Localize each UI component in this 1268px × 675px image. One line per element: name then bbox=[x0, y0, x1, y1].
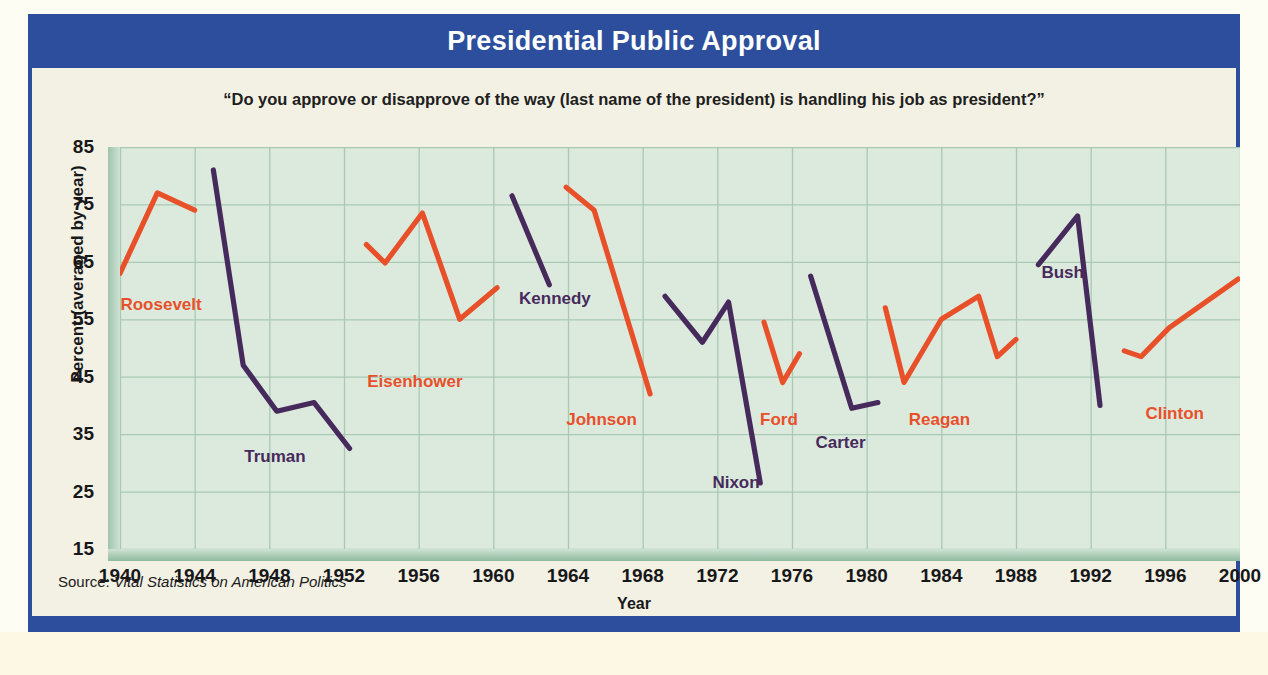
series-line-kennedy bbox=[512, 196, 549, 285]
chart-subtitle: “Do you approve or disapprove of the way… bbox=[32, 90, 1236, 109]
chart-page: Presidential Public Approval “Do you app… bbox=[0, 0, 1268, 675]
y-tick-label: 35 bbox=[48, 423, 94, 445]
plot-area: RooseveltTrumanEisenhowerKennedyJohnsonN… bbox=[120, 147, 1240, 549]
series-label-kennedy: Kennedy bbox=[519, 289, 591, 309]
page-title: Presidential Public Approval bbox=[447, 26, 821, 57]
y-tick-label: 15 bbox=[48, 538, 94, 560]
series-line-clinton bbox=[1124, 279, 1238, 357]
plot-outer: RooseveltTrumanEisenhowerKennedyJohnsonN… bbox=[108, 147, 1240, 561]
series-label-ford: Ford bbox=[760, 410, 798, 430]
plot-bottom-bevel bbox=[108, 549, 1240, 561]
x-tick-label: 1988 bbox=[976, 565, 1056, 587]
x-tick-label: 1984 bbox=[901, 565, 981, 587]
series-label-johnson: Johnson bbox=[566, 410, 637, 430]
source-prefix: Source: bbox=[58, 573, 114, 590]
series-line-truman bbox=[213, 170, 349, 449]
series-label-roosevelt: Roosevelt bbox=[120, 295, 201, 315]
source-note: Source: Vital Statistics on American Pol… bbox=[58, 573, 346, 590]
plot-left-bevel bbox=[108, 147, 120, 561]
x-tick-label: 1976 bbox=[752, 565, 832, 587]
series-label-carter: Carter bbox=[815, 433, 865, 453]
x-tick-label: 2000 bbox=[1200, 565, 1268, 587]
chart-panel: “Do you approve or disapprove of the way… bbox=[32, 68, 1236, 616]
series-label-nixon: Nixon bbox=[712, 473, 759, 493]
chart-svg bbox=[120, 147, 1240, 549]
chart-title-bar: Presidential Public Approval bbox=[28, 14, 1240, 68]
bottom-blue-strip bbox=[28, 622, 1240, 632]
series-label-bush: Bush bbox=[1041, 263, 1084, 283]
series-line-ford bbox=[764, 322, 799, 382]
x-axis-title: Year bbox=[32, 595, 1236, 613]
series-label-reagan: Reagan bbox=[909, 410, 970, 430]
series-label-truman: Truman bbox=[244, 447, 305, 467]
x-tick-label: 1956 bbox=[379, 565, 459, 587]
series-line-eisenhower bbox=[366, 213, 497, 319]
page-bottom-margin bbox=[0, 632, 1268, 675]
series-label-clinton: Clinton bbox=[1145, 404, 1204, 424]
series-label-eisenhower: Eisenhower bbox=[367, 372, 462, 392]
x-tick-label: 1960 bbox=[453, 565, 533, 587]
y-axis-title: Percent (averaged by year) bbox=[68, 154, 88, 394]
x-tick-label: 1964 bbox=[528, 565, 608, 587]
x-tick-label: 1972 bbox=[677, 565, 757, 587]
x-tick-label: 1996 bbox=[1125, 565, 1205, 587]
figure-frame: Presidential Public Approval “Do you app… bbox=[28, 14, 1240, 622]
x-tick-label: 1992 bbox=[1051, 565, 1131, 587]
y-tick-label: 25 bbox=[48, 481, 94, 503]
source-title: Vital Statistics on American Politics bbox=[114, 573, 347, 590]
x-tick-label: 1980 bbox=[827, 565, 907, 587]
series-line-reagan bbox=[885, 296, 1016, 382]
x-tick-label: 1968 bbox=[603, 565, 683, 587]
series-line-nixon bbox=[665, 296, 760, 483]
